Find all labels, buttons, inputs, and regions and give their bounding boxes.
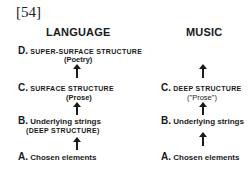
level-label: DEEP STRUCTURE	[173, 85, 241, 92]
language-level-c-note: (Prose)	[66, 93, 92, 102]
level-letter: B.	[161, 115, 171, 126]
level-letter: A.	[18, 151, 28, 162]
figure-number: [54]	[16, 4, 41, 21]
level-label: Chosen elements	[173, 153, 239, 162]
level-letter: B.	[18, 115, 28, 126]
up-arrow-icon	[198, 102, 208, 115]
language-level-a: A. Chosen elements	[18, 151, 96, 162]
level-label: Chosen elements	[30, 153, 96, 162]
music-level-c: C. DEEP STRUCTURE	[161, 82, 241, 93]
language-level-c: C. SURFACE STRUCTURE	[18, 82, 114, 93]
level-letter: A.	[161, 151, 171, 162]
music-level-a: A. Chosen elements	[161, 151, 239, 162]
up-arrow-icon	[72, 137, 82, 150]
level-label: Underlying strings	[173, 117, 244, 126]
level-letter: D.	[18, 45, 28, 56]
level-letter: C.	[18, 82, 28, 93]
level-label: SUPER-SURFACE STRUCTURE	[30, 48, 142, 55]
level-letter: C.	[161, 82, 171, 93]
level-label: Underlying strings	[30, 117, 101, 126]
up-arrow-icon	[72, 102, 82, 115]
music-heading: MUSIC	[186, 26, 222, 38]
up-arrow-icon	[198, 64, 208, 78]
language-level-b: B. Underlying strings	[18, 115, 101, 126]
music-level-c-note: ("Prose")	[187, 93, 217, 102]
up-arrow-icon	[198, 132, 208, 146]
music-level-b: B. Underlying strings	[161, 115, 244, 126]
language-level-d-note: (Poetry)	[64, 55, 92, 64]
level-label: SURFACE STRUCTURE	[30, 85, 114, 92]
language-level-b-note: (DEEP STRUCTURE)	[26, 127, 100, 134]
language-heading: LANGUAGE	[46, 26, 111, 38]
up-arrow-icon	[72, 64, 82, 78]
